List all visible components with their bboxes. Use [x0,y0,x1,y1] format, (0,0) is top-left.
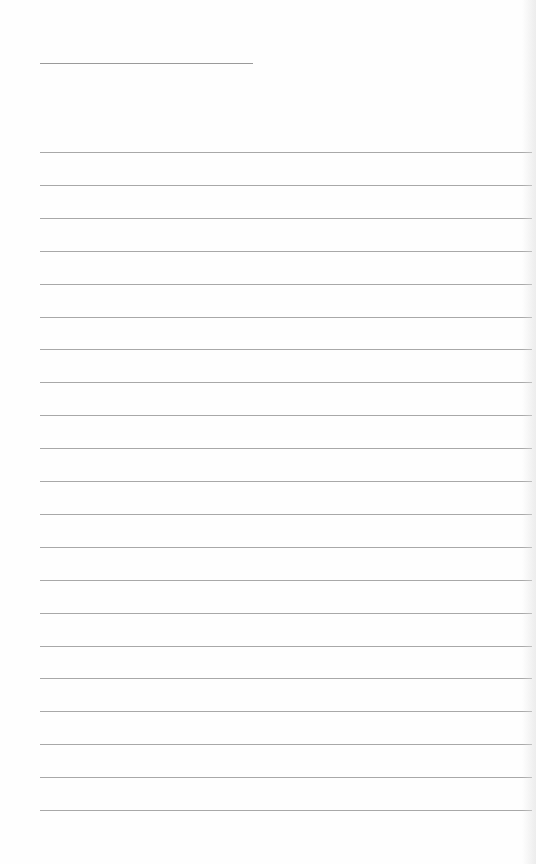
ruled-line [40,613,532,614]
ruled-line [40,218,532,219]
ruled-line [40,481,532,482]
ruled-line [40,514,532,515]
ruled-line [40,744,532,745]
ruled-line [40,711,532,712]
ruled-line [40,678,532,679]
title-line [40,63,253,64]
ruled-line [40,777,532,778]
ruled-line [40,317,532,318]
ruled-line [40,810,532,811]
ruled-line [40,152,532,153]
page-edge-shadow [522,0,536,864]
ruled-line [40,349,532,350]
ruled-line [40,415,532,416]
ruled-line [40,382,532,383]
ruled-line [40,185,532,186]
ruled-line [40,646,532,647]
lined-paper-sheet [0,0,536,864]
ruled-line [40,580,532,581]
ruled-line [40,448,532,449]
ruled-line [40,284,532,285]
ruled-line [40,547,532,548]
ruled-line [40,251,532,252]
